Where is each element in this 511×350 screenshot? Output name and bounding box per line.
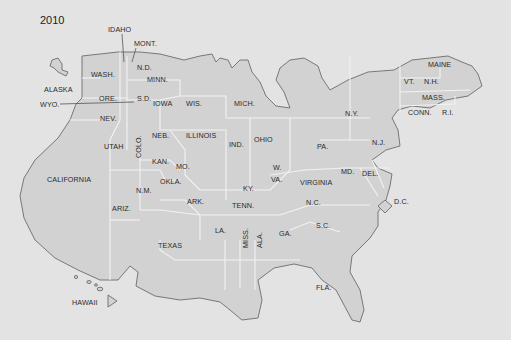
label-ariz: ARIZ. xyxy=(112,204,131,213)
label-alaska: ALASKA xyxy=(44,85,73,94)
label-minn: MINN. xyxy=(147,75,168,84)
map-canvas: 2010 IDAHO MONT. ALASKA WYO. WASH. ORE. … xyxy=(0,0,511,340)
label-maine: MAINE xyxy=(428,60,451,69)
label-mich: MICH. xyxy=(234,99,255,108)
label-pa: PA. xyxy=(317,142,328,151)
label-neb: NEB. xyxy=(152,131,169,140)
label-wyo: WYO. xyxy=(40,100,60,109)
label-kan: KAN. xyxy=(152,157,169,166)
label-ark: ARK. xyxy=(187,197,204,206)
label-sd: S.D. xyxy=(137,94,151,103)
label-fla: FLA. xyxy=(316,283,332,292)
label-ind: IND. xyxy=(229,140,244,149)
label-wva-va: VA. xyxy=(271,175,282,184)
label-nh: N.H. xyxy=(424,77,439,86)
label-la: LA. xyxy=(215,226,226,235)
label-california: CALIFORNIA xyxy=(47,175,91,184)
label-wva-w: W. xyxy=(273,163,282,172)
label-nj: N.J. xyxy=(372,138,385,147)
label-vt: VT. xyxy=(404,77,415,86)
label-wash: WASH. xyxy=(91,70,115,79)
label-utah: UTAH xyxy=(104,142,123,151)
label-wis: WIS. xyxy=(186,99,202,108)
label-nd: N.D. xyxy=(137,63,152,72)
label-sc: S.C. xyxy=(316,221,330,230)
label-ri: R.I. xyxy=(442,108,454,117)
label-ala: ALA. xyxy=(255,232,264,248)
label-ohio: OHIO xyxy=(254,135,273,144)
alaska-shape xyxy=(50,58,68,76)
label-tenn: TENN. xyxy=(232,201,254,210)
map-year: 2010 xyxy=(40,14,64,26)
label-virginia: VIRGINIA xyxy=(300,178,332,187)
label-mass: MASS. xyxy=(422,93,445,102)
label-iowa: IOWA xyxy=(153,99,172,108)
label-dc: D.C. xyxy=(394,197,409,206)
label-ore: ORE. xyxy=(99,94,117,103)
label-ny: N.Y. xyxy=(345,109,358,118)
label-colo: COLO. xyxy=(134,135,143,158)
label-texas: TEXAS xyxy=(158,241,182,250)
label-ga: GA. xyxy=(279,229,292,238)
label-nc: N.C. xyxy=(306,198,321,207)
label-miss: MISS. xyxy=(241,228,250,248)
label-nev: NEV. xyxy=(100,114,117,123)
label-conn: CONN. xyxy=(408,108,432,117)
label-idaho: IDAHO xyxy=(108,25,132,34)
label-nm: N.M. xyxy=(136,186,152,195)
label-hawaii: HAWAII xyxy=(72,298,98,307)
label-okla: OKLA. xyxy=(160,177,182,186)
label-del: DEL. xyxy=(362,169,378,178)
cartogram-map: 2010 IDAHO MONT. ALASKA WYO. WASH. ORE. … xyxy=(0,0,511,340)
label-illinois: ILLINOIS xyxy=(186,131,216,140)
label-ky: KY. xyxy=(243,184,254,193)
label-md: MD. xyxy=(341,167,354,176)
label-mo: MO. xyxy=(176,162,190,171)
label-mont: MONT. xyxy=(134,39,157,48)
